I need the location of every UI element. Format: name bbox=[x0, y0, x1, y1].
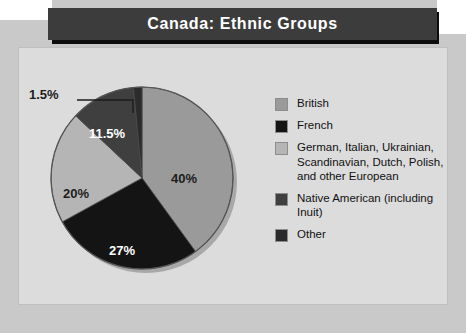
slice-label-european: 20% bbox=[63, 186, 89, 201]
page-margin-top-right bbox=[437, 0, 466, 34]
legend-item-label: German, Italian, Ukrainian, Scandinavian… bbox=[297, 140, 447, 184]
legend-item-label: Other bbox=[297, 227, 326, 242]
pie-slices bbox=[47, 83, 247, 283]
legend-swatch-icon bbox=[275, 193, 288, 206]
legend-item-label: British bbox=[297, 96, 329, 111]
slice-label-native-american: 11.5% bbox=[89, 126, 125, 141]
legend-item-label: French bbox=[297, 118, 333, 133]
chart-panel: 40% 27% 20% 11.5% 1.5% British French Ge bbox=[18, 47, 448, 305]
page-title: Canada: Ethnic Groups bbox=[147, 15, 337, 33]
pie-chart: 40% 27% 20% 11.5% 1.5% bbox=[47, 83, 247, 283]
legend-item-native-american[interactable]: Native American (including Inuit) bbox=[275, 191, 447, 220]
legend-swatch-icon bbox=[275, 229, 288, 242]
title-banner: Canada: Ethnic Groups bbox=[48, 8, 437, 40]
legend-item-other[interactable]: Other bbox=[275, 227, 447, 242]
legend-item-european[interactable]: German, Italian, Ukrainian, Scandinavian… bbox=[275, 140, 447, 184]
slice-label-other: 1.5% bbox=[29, 87, 59, 102]
legend-item-british[interactable]: British bbox=[275, 96, 447, 111]
legend-item-french[interactable]: French bbox=[275, 118, 447, 133]
chart-legend: British French German, Italian, Ukrainia… bbox=[275, 96, 447, 249]
legend-swatch-icon bbox=[275, 120, 288, 133]
legend-item-label: Native American (including Inuit) bbox=[297, 191, 447, 220]
pie-slice-group bbox=[51, 87, 233, 269]
page-margin-top-left bbox=[0, 0, 52, 20]
legend-swatch-icon bbox=[275, 98, 288, 111]
legend-swatch-icon bbox=[275, 142, 288, 155]
slice-label-french: 27% bbox=[109, 243, 135, 258]
chart-figure: Canada: Ethnic Groups 40% 27% 20% 11.5% … bbox=[0, 0, 466, 333]
slice-label-british: 40% bbox=[171, 171, 197, 186]
